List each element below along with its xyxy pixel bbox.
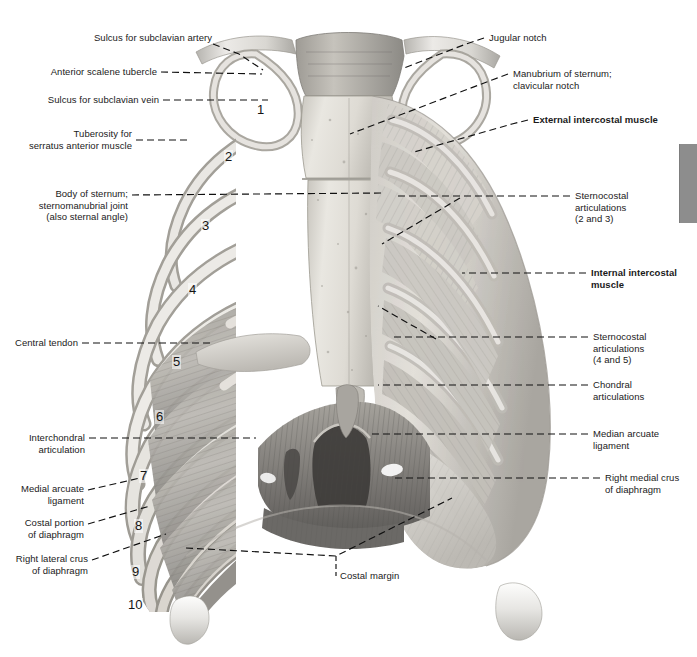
rib-number-6: 6 [155, 410, 164, 424]
rib-number-2: 2 [224, 150, 233, 164]
anatomy-plate: Sulcus for subclavian artery Anterior sc… [0, 0, 697, 657]
chapter-thumb-tab[interactable] [679, 144, 697, 223]
label-sternocostal-articulations-4-5: Sternocostal articulations (4 and 5) [593, 331, 697, 366]
rib-number-1: 1 [256, 103, 265, 117]
label-median-arcuate-ligament: Median arcuate ligament [593, 428, 697, 451]
label-tuberosity-serratus-anterior: Tuberosity for serratus anterior muscle [0, 128, 132, 151]
label-interchondral-articulation: Interchondral articulation [0, 432, 85, 455]
label-costal-margin: Costal margin [340, 570, 460, 582]
rib-number-10: 10 [127, 598, 143, 612]
label-medial-arcuate-ligament: Medial arcuate ligament [0, 483, 84, 506]
label-chondral-articulations: Chondral articulations [593, 379, 697, 402]
label-sulcus-subclavian-vein: Sulcus for subclavian vein [0, 94, 159, 106]
label-sulcus-subclavian-artery: Sulcus for subclavian artery [0, 32, 212, 44]
label-body-of-sternum: Body of sternum; sternomanubrial joint (… [0, 188, 128, 223]
label-jugular-notch: Jugular notch [489, 32, 679, 44]
rib-number-4: 4 [188, 283, 197, 297]
rib-number-7: 7 [139, 469, 148, 483]
label-internal-intercostal-muscle: Internal intercostal muscle [591, 267, 697, 290]
label-costal-portion-diaphragm: Costal portion of diaphragm [0, 517, 84, 540]
label-right-medial-crus-diaphragm: Right medial crus of diaphragm [605, 472, 697, 495]
label-central-tendon: Central tendon [0, 337, 78, 349]
label-right-lateral-crus-diaphragm: Right lateral crus of diaphragm [0, 553, 88, 576]
rib-number-9: 9 [131, 565, 140, 579]
rib-number-3: 3 [201, 219, 210, 233]
label-manubrium-of-sternum: Manubrium of sternum; clavicular notch [513, 68, 691, 91]
rib-number-8: 8 [134, 519, 143, 533]
label-anterior-scalene-tubercle: Anterior scalene tubercle [0, 66, 157, 78]
label-sternocostal-articulations-2-3: Sternocostal articulations (2 and 3) [575, 190, 695, 225]
rib-number-5: 5 [172, 355, 181, 369]
label-external-intercostal-muscle: External intercostal muscle [533, 114, 697, 126]
